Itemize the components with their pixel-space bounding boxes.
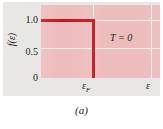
plot-area	[41, 5, 160, 78]
gridline-x-right	[151, 5, 152, 78]
curve-occupied-plateau	[41, 19, 95, 22]
figure-caption: (a)	[0, 104, 163, 116]
y-axis-title: f(ε)	[6, 23, 17, 57]
annotation-temperature: T = 0	[110, 32, 132, 43]
y-tick-label-1-0: 1.0	[26, 15, 39, 25]
y-tick-label-0: 0	[33, 73, 38, 83]
y-tick-label-0-5: 0.5	[26, 47, 39, 57]
curve-fermi-step-drop	[92, 19, 95, 78]
plot-texture-overlay	[41, 5, 160, 78]
x-axis-title-energy: ε	[146, 80, 150, 91]
fermi-dirac-figure: 1.0 0.5 0 f(ε) T = 0 εF ε (a)	[0, 0, 163, 129]
gridline-y-0-5	[41, 48, 160, 49]
x-tick-label-fermi-energy-subscript: F	[86, 86, 90, 94]
x-tick-label-fermi-energy: εF	[82, 80, 90, 94]
